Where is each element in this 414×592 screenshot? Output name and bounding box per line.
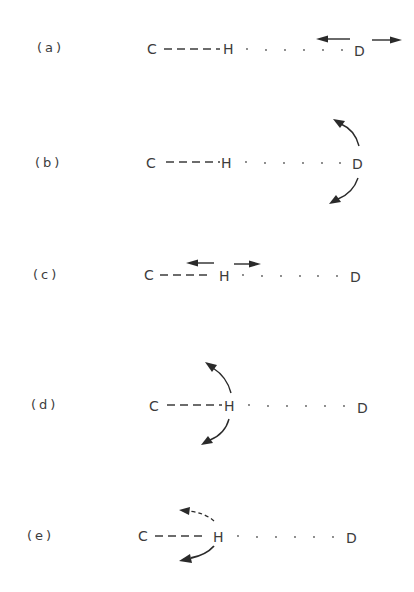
h-d-dotted-bond: [242, 274, 338, 277]
curved-arrow-down-icon: [201, 419, 229, 445]
h-d-dotted-bond: [248, 404, 345, 407]
arrow-right-icon: [234, 261, 261, 268]
row-e: (e) C H D: [27, 507, 357, 563]
atom-d: D: [357, 400, 368, 416]
h-d-dotted-bond: [245, 161, 341, 164]
atom-d: D: [350, 269, 361, 285]
curved-arrow-up-icon: [205, 362, 231, 393]
vibrational-modes-diagram: (a) C H D (b) C H: [0, 0, 414, 592]
arrow-right-icon: [372, 37, 402, 44]
row-b: (b) C H D: [35, 119, 363, 204]
h-d-dotted-bond: [246, 48, 343, 51]
atom-c: C: [147, 41, 157, 57]
curved-arrow-up-icon: [333, 119, 359, 146]
row-label-a: (a): [37, 40, 64, 55]
row-label-b: (b): [35, 155, 62, 170]
atom-h: H: [223, 41, 234, 57]
arrow-left-icon: [316, 36, 350, 43]
row-d: (d) C H D: [31, 362, 368, 445]
atom-h: H: [224, 398, 235, 414]
atom-d: D: [346, 530, 357, 546]
row-label-d: (d): [31, 397, 58, 412]
atom-h: H: [221, 155, 232, 171]
h-d-dotted-bond: [237, 535, 334, 538]
atom-d: D: [352, 156, 363, 172]
row-c: (c) C H D: [33, 260, 361, 286]
row-label-e: (e): [27, 528, 54, 543]
curved-arrow-down-icon: [329, 178, 358, 204]
row-a: (a) C H D: [37, 36, 402, 60]
atom-c: C: [146, 155, 156, 171]
arrow-left-icon: [186, 260, 214, 267]
atom-d: D: [354, 43, 365, 59]
atom-c: C: [144, 267, 154, 283]
atom-c: C: [138, 528, 148, 544]
row-label-c: (c): [33, 267, 59, 282]
atom-h: H: [213, 529, 224, 545]
atom-c: C: [149, 398, 159, 414]
dashed-curved-arrow-up-icon: [179, 507, 214, 521]
curved-arrow-down-icon: [179, 546, 214, 563]
atom-h: H: [219, 268, 230, 284]
